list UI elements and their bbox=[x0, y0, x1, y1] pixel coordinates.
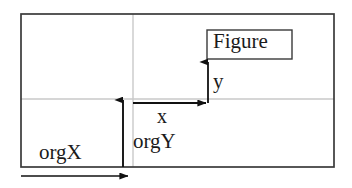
y-axis-label: y bbox=[213, 71, 224, 92]
orgy-label: orgY bbox=[133, 131, 176, 152]
diagram-canvas: Figure y x orgY orgX bbox=[0, 0, 352, 188]
orgx-label: orgX bbox=[39, 142, 82, 163]
x-axis-label: x bbox=[157, 106, 167, 126]
figure-box-label: Figure bbox=[213, 31, 268, 52]
